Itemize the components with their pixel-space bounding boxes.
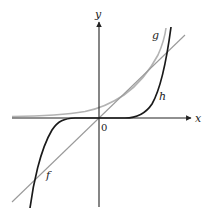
x-axis-label: x (195, 112, 202, 125)
curve-g (12, 28, 166, 117)
curve-g-label: g (152, 29, 159, 42)
curve-f-label: f (45, 169, 52, 182)
origin-label: 0 (101, 122, 107, 133)
function-graph: y x 0 g h f (0, 0, 213, 212)
curve-h-label: h (159, 90, 166, 103)
y-axis-label: y (94, 8, 102, 21)
